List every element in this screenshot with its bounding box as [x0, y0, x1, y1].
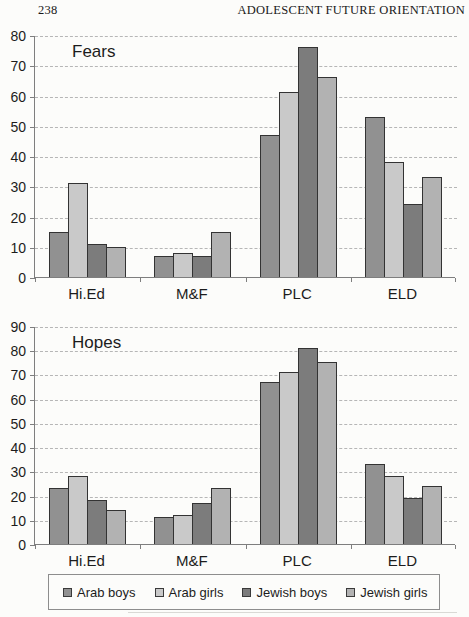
legend-swatch	[63, 588, 72, 597]
y-tick-label: 40	[0, 440, 26, 456]
y-axis-tick	[30, 97, 35, 98]
category-label: ELD	[350, 552, 455, 569]
bar-arab-girls	[279, 92, 299, 277]
y-tick-label: 90	[0, 319, 26, 335]
x-axis-tick	[455, 278, 456, 282]
bar-jewish-girls	[211, 488, 231, 544]
page-header: 238 ADOLESCENT FUTURE ORIENTATION	[0, 3, 469, 18]
y-tick-label: 70	[0, 58, 26, 74]
legend-item: Jewish girls	[346, 585, 427, 600]
y-axis-tick	[30, 448, 35, 449]
bar-jewish-boys	[192, 503, 212, 544]
gridline	[35, 375, 457, 376]
y-tick-label: 0	[0, 537, 26, 553]
gridline	[35, 36, 457, 37]
bar-arab-girls	[384, 162, 404, 277]
y-axis-tick	[30, 375, 35, 376]
gridline	[35, 66, 457, 67]
y-tick-label: 70	[0, 367, 26, 383]
category-label: ELD	[350, 285, 455, 302]
gridline	[35, 97, 457, 98]
category-label: PLC	[245, 285, 350, 302]
bar-jewish-girls	[317, 362, 337, 544]
x-axis-tick	[351, 278, 352, 282]
legend-swatch	[155, 588, 164, 597]
bar-jewish-boys	[403, 204, 423, 277]
bar-arab-girls	[173, 515, 193, 544]
y-tick-label: 20	[0, 489, 26, 505]
bar-arab-girls	[173, 253, 193, 277]
legend: Arab boysArab girlsJewish boysJewish gir…	[48, 574, 440, 610]
legend-item: Jewish boys	[242, 585, 327, 600]
chart-title: Hopes	[72, 333, 121, 353]
bar-arab-girls	[279, 372, 299, 544]
y-axis-tick	[30, 218, 35, 219]
book-page: 238 ADOLESCENT FUTURE ORIENTATION 010203…	[0, 0, 469, 617]
category-label: M&F	[139, 285, 244, 302]
bar-arab-girls	[68, 183, 88, 277]
y-tick-label: 40	[0, 149, 26, 165]
bar-arab-boys	[365, 464, 385, 544]
gridline	[35, 157, 457, 158]
bar-jewish-girls	[422, 486, 442, 544]
bar-arab-boys	[260, 135, 280, 277]
y-tick-label: 60	[0, 392, 26, 408]
scan-artifact-line	[128, 612, 457, 613]
y-axis-tick	[30, 157, 35, 158]
y-axis-tick	[30, 424, 35, 425]
bar-arab-boys	[260, 382, 280, 544]
bar-jewish-boys	[87, 500, 107, 544]
x-axis-tick	[140, 278, 141, 282]
y-tick-label: 80	[0, 28, 26, 44]
bar-arab-boys	[49, 488, 69, 544]
bar-jewish-girls	[317, 77, 337, 277]
y-tick-label: 30	[0, 179, 26, 195]
category-label: Hi.Ed	[34, 552, 139, 569]
legend-label: Arab girls	[169, 585, 224, 600]
bar-arab-girls	[68, 476, 88, 544]
hopes-chart: 0102030405060708090Hi.EdM&FPLCELDHopes	[34, 327, 455, 545]
legend-swatch	[346, 588, 355, 597]
legend-label: Jewish boys	[256, 585, 327, 600]
x-axis-tick	[455, 545, 456, 549]
y-tick-label: 10	[0, 240, 26, 256]
y-tick-label: 60	[0, 89, 26, 105]
y-tick-label: 80	[0, 343, 26, 359]
y-axis-tick	[30, 351, 35, 352]
x-axis-tick	[246, 278, 247, 282]
x-axis-tick	[351, 545, 352, 549]
legend-label: Jewish girls	[360, 585, 427, 600]
gridline	[35, 424, 457, 425]
plot-area	[34, 327, 455, 545]
bar-jewish-girls	[211, 232, 231, 277]
bar-jewish-boys	[298, 348, 318, 544]
gridline	[35, 472, 457, 473]
bar-jewish-boys	[87, 244, 107, 277]
category-label: Hi.Ed	[34, 285, 139, 302]
y-tick-label: 50	[0, 119, 26, 135]
bar-jewish-girls	[106, 247, 126, 277]
bar-arab-girls	[384, 476, 404, 544]
fears-chart: 01020304050607080Hi.EdM&FPLCELDFears	[34, 36, 455, 278]
x-axis-tick	[246, 545, 247, 549]
x-axis-tick	[140, 545, 141, 549]
category-label: M&F	[139, 552, 244, 569]
category-label: PLC	[245, 552, 350, 569]
gridline	[35, 400, 457, 401]
chart-title: Fears	[72, 42, 115, 62]
plot-area	[34, 36, 455, 278]
legend-item: Arab girls	[155, 585, 224, 600]
running-head: ADOLESCENT FUTURE ORIENTATION	[237, 3, 465, 18]
x-axis-tick	[35, 278, 36, 282]
bar-jewish-boys	[403, 498, 423, 544]
y-axis-tick	[30, 521, 35, 522]
gridline	[35, 448, 457, 449]
y-axis-tick	[30, 248, 35, 249]
bar-jewish-boys	[192, 256, 212, 277]
y-tick-label: 0	[0, 270, 26, 286]
y-tick-label: 50	[0, 416, 26, 432]
gridline	[35, 127, 457, 128]
y-tick-label: 10	[0, 513, 26, 529]
bar-arab-boys	[154, 517, 174, 544]
y-axis-tick	[30, 327, 35, 328]
